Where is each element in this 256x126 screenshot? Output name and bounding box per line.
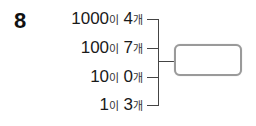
particle: 이 bbox=[109, 72, 119, 85]
count-value: 3 bbox=[124, 95, 133, 114]
place-label: 10 bbox=[90, 67, 109, 86]
particle: 이 bbox=[109, 14, 119, 27]
problem-number: 8 bbox=[14, 8, 26, 34]
bracket-tick-4 bbox=[147, 105, 158, 106]
bracket-connector bbox=[158, 61, 174, 62]
place-value-row-tens: 10이 0개 bbox=[90, 67, 143, 87]
place-value-row-thousands: 1000이 4개 bbox=[71, 9, 143, 29]
unit-label: 개 bbox=[133, 14, 143, 27]
place-label: 100 bbox=[81, 38, 109, 57]
place-label: 1000 bbox=[71, 9, 109, 28]
particle: 이 bbox=[109, 100, 119, 113]
bracket-vertical bbox=[158, 19, 159, 106]
count-value: 4 bbox=[124, 9, 133, 28]
unit-label: 개 bbox=[133, 43, 143, 56]
unit-label: 개 bbox=[133, 100, 143, 113]
place-value-row-hundreds: 100이 7개 bbox=[81, 38, 143, 58]
bracket-tick-3 bbox=[147, 77, 158, 78]
place-label: 1 bbox=[100, 95, 109, 114]
place-value-row-ones: 1이 3개 bbox=[100, 95, 143, 115]
bracket-tick-2 bbox=[147, 48, 158, 49]
unit-label: 개 bbox=[133, 72, 143, 85]
count-value: 0 bbox=[124, 67, 133, 86]
count-value: 7 bbox=[124, 38, 133, 57]
bracket-tick-1 bbox=[147, 19, 158, 20]
particle: 이 bbox=[109, 43, 119, 56]
answer-box[interactable] bbox=[174, 44, 242, 76]
